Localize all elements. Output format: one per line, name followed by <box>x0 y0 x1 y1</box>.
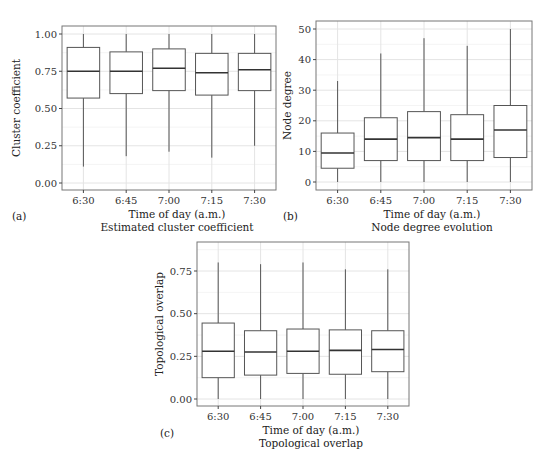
panel-tag: (c) <box>160 427 174 439</box>
box-715 <box>451 46 484 182</box>
x-axis-ticks: 6:306:457:007:157:30 <box>207 406 399 422</box>
box-645 <box>244 264 276 399</box>
y-tick-label: 50 <box>298 24 311 35</box>
y-axis-label: Topological overlap <box>153 272 165 376</box>
y-tick-label: 0.50 <box>35 103 57 114</box>
iqr-box <box>451 115 484 161</box>
panel-tag: (a) <box>12 210 26 222</box>
panel-caption: Node degree evolution <box>371 221 493 233</box>
y-tick-label: 0.75 <box>35 66 57 77</box>
box-700 <box>287 262 319 399</box>
x-axis-label: Time of day (a.m.) <box>263 424 360 436</box>
y-axis-ticks: 0.000.250.500.751.00 <box>35 29 62 189</box>
x-tick-label: 7:15 <box>201 195 223 206</box>
box-630 <box>321 81 354 182</box>
x-tick-label: 6:30 <box>207 411 229 422</box>
x-tick-label: 7:30 <box>377 411 399 422</box>
box-645 <box>110 34 143 156</box>
x-tick-label: 7:15 <box>334 411 356 422</box>
panel-b: 01020304050 6:306:457:007:157:30 Node de… <box>281 21 532 233</box>
box-630 <box>67 34 100 167</box>
iqr-box <box>202 323 234 378</box>
x-tick-label: 6:30 <box>72 195 94 206</box>
iqr-box <box>110 52 143 94</box>
y-tick-label: 0.00 <box>170 394 192 405</box>
panel-c: 0.000.250.500.75 6:306:457:007:157:30 To… <box>153 242 409 449</box>
y-tick-label: 1.00 <box>35 29 57 40</box>
iqr-box <box>67 47 100 98</box>
y-tick-label: 0.00 <box>35 178 57 189</box>
boxplots <box>202 262 404 399</box>
x-tick-label: 7:15 <box>456 195 478 206</box>
y-tick-label: 0 <box>305 177 311 188</box>
x-axis-label: Time of day (a.m.) <box>129 208 226 220</box>
y-tick-label: 0.50 <box>170 308 192 319</box>
x-tick-label: 6:30 <box>326 195 348 206</box>
y-axis-ticks: 0.000.250.500.75 <box>170 266 197 405</box>
boxplots <box>67 34 271 167</box>
y-axis-label: Cluster coefficient <box>10 58 22 157</box>
x-tick-label: 7:00 <box>158 195 180 206</box>
figure: 0.000.250.500.751.00 6:306:457:007:157:3… <box>0 0 558 476</box>
panel-caption: Estimated cluster coefficient <box>100 221 254 233</box>
x-tick-label: 6:45 <box>249 411 271 422</box>
box-715 <box>329 269 361 399</box>
y-tick-label: 30 <box>298 85 311 96</box>
iqr-box <box>494 106 527 158</box>
x-axis-ticks: 6:306:457:007:157:30 <box>326 190 521 206</box>
y-tick-label: 10 <box>298 146 311 157</box>
x-tick-label: 7:30 <box>243 195 265 206</box>
x-tick-label: 6:45 <box>370 195 392 206</box>
y-tick-label: 0.75 <box>170 266 192 277</box>
box-700 <box>153 34 186 152</box>
y-axis-label: Node degree <box>281 71 293 140</box>
box-630 <box>202 262 234 399</box>
x-tick-label: 7:00 <box>413 195 435 206</box>
x-tick-label: 7:00 <box>292 411 314 422</box>
y-axis-ticks: 01020304050 <box>298 24 316 188</box>
iqr-box <box>372 331 404 372</box>
y-tick-label: 20 <box>298 115 311 126</box>
y-tick-label: 0.25 <box>170 351 192 362</box>
box-730 <box>372 269 404 399</box>
panel-a: 0.000.250.500.751.00 6:306:457:007:157:3… <box>10 26 276 233</box>
box-730 <box>238 34 271 146</box>
x-tick-label: 6:45 <box>115 195 137 206</box>
iqr-box <box>321 133 354 168</box>
panel-tag: (b) <box>283 210 298 222</box>
iqr-box <box>244 331 276 375</box>
iqr-box <box>238 53 271 90</box>
y-tick-label: 40 <box>298 54 311 65</box>
box-730 <box>494 29 527 182</box>
x-axis-label: Time of day (a.m.) <box>384 208 481 220</box>
panel-caption: Topological overlap <box>259 437 363 449</box>
x-axis-ticks: 6:306:457:007:157:30 <box>72 190 266 206</box>
iqr-box <box>153 49 186 91</box>
y-tick-label: 0.25 <box>35 140 57 151</box>
iqr-box <box>196 53 229 95</box>
x-tick-label: 7:30 <box>499 195 521 206</box>
iqr-box <box>408 112 441 161</box>
iqr-box <box>329 330 361 374</box>
box-645 <box>364 53 397 182</box>
